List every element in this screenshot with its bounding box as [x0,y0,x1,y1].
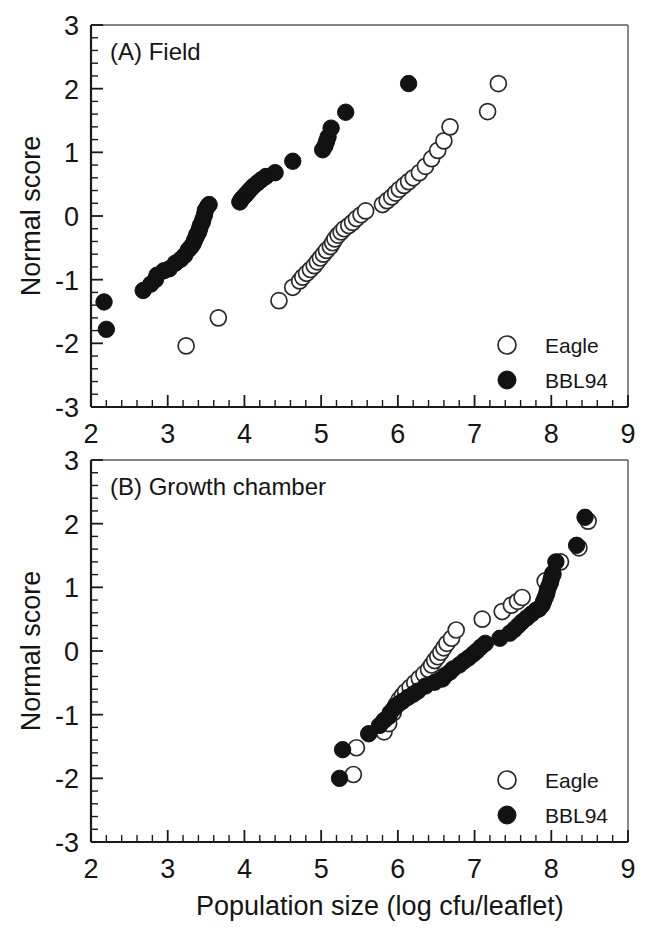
data-point-bbl94 [577,509,593,525]
data-point-bbl94 [477,635,493,651]
x-tick-label: 7 [467,854,482,884]
data-point-eagle [448,622,464,638]
panel-a: 23456789-3-2-10123 (A) Field Eagle BBL94 [55,11,636,449]
x-tick-label: 3 [160,854,175,884]
panel-b-legend: Eagle BBL94 [498,769,608,827]
legend-label-eagle: Eagle [545,334,599,357]
y-tick-label: -2 [55,329,79,359]
y-tick-label: -2 [55,764,79,794]
normal-score-scatter-figure: 23456789-3-2-10123 (A) Field Eagle BBL94 [0,0,660,928]
data-point-eagle [442,119,458,135]
y-tick-label: 0 [64,202,79,232]
data-point-bbl94 [267,165,283,181]
x-tick-label: 2 [83,419,98,449]
data-point-bbl94 [331,770,347,786]
legend-label-bbl94: BBL94 [545,804,608,827]
data-point-bbl94 [568,537,584,553]
y-tick-label: -1 [55,266,79,296]
y-tick-label: -3 [55,828,79,858]
legend-marker-eagle-icon [498,771,516,789]
data-point-eagle [480,104,496,120]
y-tick-label: 1 [64,138,79,168]
data-point-eagle [210,310,226,326]
data-point-bbl94 [323,120,339,136]
panel-b: 23456789-3-2-10123 (B) Growth chamber Ea… [55,446,636,884]
legend-marker-bbl94-icon [498,806,516,824]
data-point-bbl94 [201,196,217,212]
y-tick-label: 0 [64,637,79,667]
figure-container: 23456789-3-2-10123 (A) Field Eagle BBL94 [0,0,660,928]
y-tick-label: -3 [55,393,79,423]
legend-label-eagle: Eagle [545,769,599,792]
x-tick-label: 8 [544,419,559,449]
data-point-eagle [490,76,506,92]
y-axis-title-panel-a: Normal score [16,136,46,297]
legend-marker-eagle-icon [498,336,516,354]
x-tick-label: 5 [314,419,329,449]
x-tick-label: 2 [83,854,98,884]
x-tick-label: 9 [620,854,635,884]
panel-a-title: (A) Field [110,38,201,65]
data-point-bbl94 [285,153,301,169]
x-tick-label: 9 [620,419,635,449]
data-point-bbl94 [337,104,353,120]
y-tick-label: -1 [55,701,79,731]
data-point-bbl94 [98,321,114,337]
panel-b-title: (B) Growth chamber [110,473,326,500]
x-tick-label: 6 [390,419,405,449]
x-tick-label: 7 [467,419,482,449]
x-tick-label: 4 [237,419,252,449]
data-point-bbl94 [96,294,112,310]
legend-marker-bbl94-icon [498,371,516,389]
y-tick-label: 2 [64,75,79,105]
data-point-bbl94 [548,554,564,570]
data-point-eagle [474,611,490,627]
x-axis-title: Population size (log cfu/leaflet) [196,891,564,921]
x-tick-label: 8 [544,854,559,884]
data-point-eagle [514,590,530,606]
x-tick-label: 4 [237,854,252,884]
data-point-eagle [178,338,194,354]
y-tick-label: 2 [64,510,79,540]
y-tick-label: 1 [64,573,79,603]
y-tick-label: 3 [64,446,79,476]
data-point-eagle [271,293,287,309]
data-point-eagle [358,203,374,219]
data-point-bbl94 [400,75,416,91]
x-tick-label: 6 [390,854,405,884]
panel-b-series-bbl94 [331,509,593,786]
x-tick-label: 5 [314,854,329,884]
data-point-bbl94 [334,741,350,757]
x-tick-label: 3 [160,419,175,449]
y-tick-label: 3 [64,11,79,41]
y-axis-title-panel-b: Normal score [16,571,46,732]
panel-a-legend: Eagle BBL94 [498,334,608,392]
legend-label-bbl94: BBL94 [545,369,608,392]
